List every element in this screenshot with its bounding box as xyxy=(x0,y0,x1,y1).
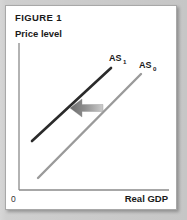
as1-label-subscript: 1 xyxy=(123,58,127,65)
x-axis-label: Real GDP xyxy=(125,193,168,204)
chart-plot-area: AS 1 AS 0 xyxy=(6,6,176,209)
as0-label-base: AS xyxy=(139,60,152,70)
figure-panel: FIGURE 1 Price level xyxy=(5,5,177,210)
as0-label-subscript: 0 xyxy=(153,65,157,72)
figure-container: FIGURE 1 Price level xyxy=(0,0,187,220)
as0-label: AS 0 xyxy=(139,60,157,72)
as1-label: AS 1 xyxy=(109,53,127,65)
origin-label: 0 xyxy=(11,194,16,204)
as1-label-base: AS xyxy=(109,53,122,63)
